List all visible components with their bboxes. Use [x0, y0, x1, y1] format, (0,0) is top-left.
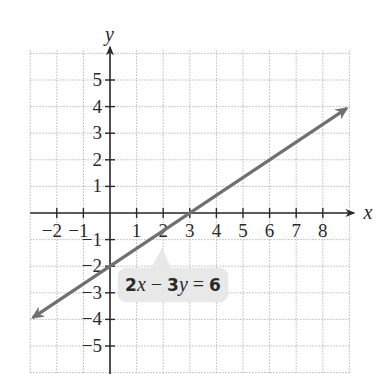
graph-figure: −2−11234567854321−1−2−3−4−5xy 2x − 3y = … [0, 0, 390, 374]
y-tick-label: 3 [93, 122, 103, 143]
y-tick-label: 5 [93, 69, 103, 90]
label-pointer [150, 248, 172, 270]
eq-minus: − [146, 273, 167, 295]
x-tick-label: 7 [291, 220, 301, 241]
x-tick-label: 8 [318, 220, 328, 241]
eq-var-x: x [137, 273, 146, 295]
y-tick-label: −5 [82, 335, 102, 356]
eq-rhs: 6 [209, 275, 221, 295]
equation-label-box: 2x − 3y = 6 [118, 268, 228, 302]
y-tick-label: 2 [93, 149, 103, 170]
eq-equals: = [188, 273, 209, 295]
y-tick-label: 1 [93, 175, 103, 196]
eq-var-y: y [179, 273, 188, 295]
x-axis-label: x [362, 201, 372, 223]
x-tick-label: 3 [185, 220, 195, 241]
x-tick-label: 5 [238, 220, 248, 241]
y-axis-label: y [103, 23, 114, 46]
x-tick-label: 1 [132, 220, 142, 241]
y-tick-label: −1 [82, 229, 102, 250]
eq-coef-y: 3 [167, 275, 179, 295]
x-tick-label: 4 [212, 220, 222, 241]
eq-coef-x: 2 [125, 275, 137, 295]
y-tick-label: 4 [93, 96, 103, 117]
y-tick-label: −4 [82, 308, 103, 329]
x-tick-label: −2 [42, 220, 62, 241]
x-tick-label: 6 [265, 220, 275, 241]
y-tick-label: −3 [82, 282, 102, 303]
coordinate-plane: −2−11234567854321−1−2−3−4−5xy [0, 0, 390, 374]
equation-label: 2x − 3y = 6 [118, 273, 228, 296]
